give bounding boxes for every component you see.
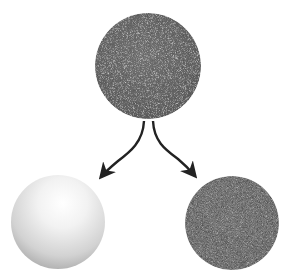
diagram-svg bbox=[0, 0, 292, 280]
glossy-white-sphere bbox=[11, 175, 105, 269]
source-sphere bbox=[95, 13, 201, 119]
matte-dark-sphere bbox=[185, 176, 279, 270]
diagram-canvas bbox=[0, 0, 292, 280]
arrow-to-left-sphere bbox=[101, 121, 144, 177]
arrow-to-right-sphere bbox=[153, 121, 195, 176]
